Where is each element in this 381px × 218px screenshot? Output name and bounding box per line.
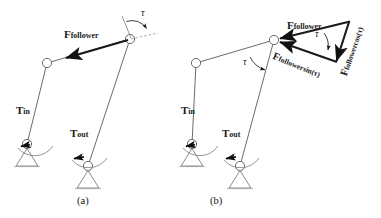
panel-b-ground-triangle-output xyxy=(229,171,251,189)
panel-b-triangle-tau-label: τ xyxy=(315,29,319,39)
panel-a-force-symbol: F xyxy=(64,28,71,40)
panel-b-triangle-tau-arc xyxy=(324,33,328,50)
panel-a-force-subscript: follower xyxy=(71,31,99,40)
panel-a-tau-normal-line xyxy=(122,16,131,38)
panel-a-ground-triangle-output xyxy=(77,171,99,189)
panel-a-caption: (a) xyxy=(77,196,89,207)
panel-b-force-symbol: F xyxy=(287,19,294,31)
panel-b-torque-in-subscript: in xyxy=(188,107,195,116)
panel-a-ground-joint-output xyxy=(83,161,92,170)
panel-a-tau-label: τ xyxy=(141,8,145,18)
panel-b-torque-out-subscript: out xyxy=(229,130,240,139)
panel-a-ground-triangle-input xyxy=(16,149,38,167)
panel-b-torque-out-arrow xyxy=(226,157,236,159)
panel-a-force-follower-arrow xyxy=(66,40,128,58)
panel-b-torque-out-label: Tout xyxy=(222,128,240,139)
panel-a-output-link xyxy=(88,39,130,166)
figure-container: Ffollower τ Tin Tout (a) Ffollower τ τ F… xyxy=(0,0,381,218)
panel-a-tau-arc xyxy=(127,21,147,29)
panel-a-force-follower-label: Ffollower xyxy=(64,29,98,40)
panel-a-input-link xyxy=(27,63,47,144)
panel-b-ground-joint-input xyxy=(187,139,196,148)
panel-b-ground-triangle-input xyxy=(181,149,203,167)
panel-a-torque-out-subscript: out xyxy=(77,130,88,139)
panel-a-torque-out-arrow xyxy=(74,157,84,159)
panel-a-joint-coupler-left xyxy=(42,58,51,67)
panel-a-torque-out-label: Tout xyxy=(70,128,88,139)
panel-a-tau-reference-line xyxy=(131,33,158,39)
panel-b-caption: (b) xyxy=(210,196,222,207)
panel-b-torque-in-label: Tin xyxy=(181,105,195,116)
panel-b-input-link xyxy=(192,63,196,144)
panel-a-torque-in-subscript: in xyxy=(23,107,30,116)
panel-b-geometry xyxy=(179,22,350,189)
panel-b-joint-tau-label: τ xyxy=(243,57,247,67)
panel-b-coupler-link xyxy=(196,40,274,63)
panel-a-torque-in-label: Tin xyxy=(16,105,30,116)
panel-a-geometry xyxy=(14,16,158,189)
panel-b-joint-tau-arc xyxy=(250,57,265,70)
panel-b-joint-coupler-left xyxy=(191,58,200,67)
panel-b-joint-coupler-right xyxy=(269,35,278,44)
panel-b-ground-joint-output xyxy=(235,161,244,170)
panel-a-ground-joint-input xyxy=(22,139,31,148)
